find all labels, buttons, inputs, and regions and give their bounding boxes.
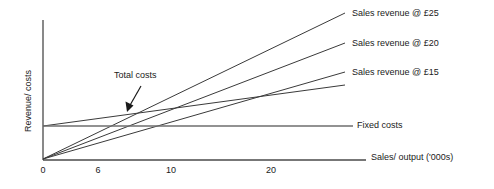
series-line-revenue-20: [43, 43, 345, 159]
y-axis-title: Revenue/ costs: [24, 70, 33, 132]
annotation-total-costs: Total costs: [114, 71, 157, 80]
x-axis-title: Sales/ output ('000s): [371, 153, 453, 162]
break-even-chart: Revenue/ costs Sales/ output ('000s) Sal…: [0, 0, 494, 189]
series-line-total-costs: [43, 85, 345, 126]
series-line-revenue-25: [43, 13, 345, 159]
series-label-revenue-25: Sales revenue @ £25: [352, 9, 439, 18]
series-label-fixed-costs: Fixed costs: [357, 121, 403, 130]
total-costs-arrow-icon: [126, 86, 142, 112]
series-label-revenue-15: Sales revenue @ £15: [352, 68, 439, 77]
x-tick-label-20: 20: [263, 166, 279, 175]
x-tick-label-6: 6: [91, 166, 105, 175]
x-tick-label-0: 0: [36, 166, 50, 175]
x-tick-label-10: 10: [163, 166, 179, 175]
series-line-revenue-15: [43, 72, 345, 159]
series-label-revenue-20: Sales revenue @ £20: [352, 39, 439, 48]
